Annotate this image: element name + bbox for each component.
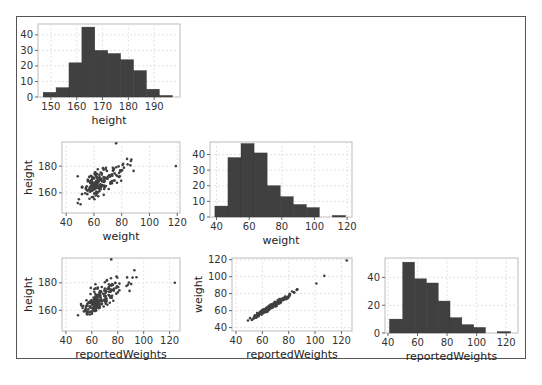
- reportedweights-histogram-svg: 40608010012002040reportedWeights: [0, 0, 542, 385]
- histogram-bar: [426, 283, 438, 333]
- histogram-bar: [415, 279, 427, 333]
- histogram-bar: [450, 318, 462, 333]
- x-tick-label: 60: [411, 337, 424, 348]
- histogram-bar: [462, 325, 474, 333]
- y-tick-label: 0: [374, 328, 380, 339]
- histogram-bar: [438, 301, 450, 333]
- y-tick-label: 20: [367, 300, 380, 311]
- x-tick-label: 40: [382, 337, 395, 348]
- histogram-bar: [403, 262, 415, 333]
- x-tick-label: 120: [497, 337, 516, 348]
- x-tick-label: 100: [467, 337, 486, 348]
- x-tick-label: 80: [441, 337, 454, 348]
- y-tick-label: 40: [367, 272, 380, 283]
- x-axis-label: reportedWeights: [406, 350, 498, 363]
- reportedweights-histogram-panel: 40608010012002040reportedWeights: [0, 0, 542, 385]
- histogram-bar: [497, 332, 510, 333]
- histogram-bar: [474, 327, 486, 333]
- histogram-bar: [389, 319, 402, 333]
